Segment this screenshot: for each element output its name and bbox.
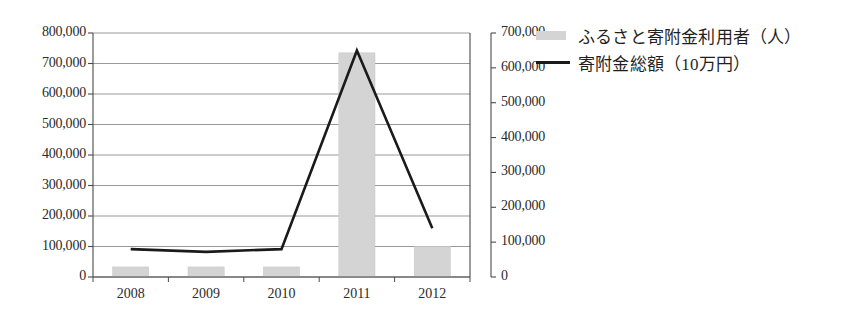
bar-2012 xyxy=(414,247,450,278)
y-axis-right-label-500000: 500,000 xyxy=(501,94,545,110)
y-axis-right-label-0: 0 xyxy=(501,268,508,284)
y-axis-left-label-400000: 400,000 xyxy=(8,146,86,162)
y-axis-left-label-700000: 700,000 xyxy=(8,55,86,71)
axis-lines xyxy=(88,33,496,282)
y-axis-left-label-500000: 500,000 xyxy=(8,116,86,132)
bar-swatch-icon xyxy=(536,31,578,40)
y-axis-left-label-0: 0 xyxy=(8,268,86,284)
legend-label-furusato-users: ふるさと寄附金利用者（人） xyxy=(578,23,802,48)
y-axis-right-label-300000: 300,000 xyxy=(501,163,545,179)
y-axis-left-label-600000: 600,000 xyxy=(8,85,86,101)
line-swatch-icon xyxy=(536,61,578,64)
x-axis-label-2009: 2009 xyxy=(168,286,243,302)
y-axis-left-label-200000: 200,000 xyxy=(8,207,86,223)
legend-label-donation-total: 寄附金総額（10万円） xyxy=(578,50,750,75)
x-axis-label-2008: 2008 xyxy=(93,286,168,302)
x-axis-label-2012: 2012 xyxy=(395,286,470,302)
y-axis-right-label-400000: 400,000 xyxy=(501,129,545,145)
y-axis-right-label-100000: 100,000 xyxy=(501,233,545,249)
x-axis-label-2011: 2011 xyxy=(319,286,394,302)
chart-legend: ふるさと寄附金利用者（人） 寄附金総額（10万円） xyxy=(536,22,836,76)
bar-series-furusato-users xyxy=(113,53,451,277)
y-axis-left-label-300000: 300,000 xyxy=(8,177,86,193)
line-path-donation-total xyxy=(131,50,433,251)
legend-item-furusato-users: ふるさと寄附金利用者（人） xyxy=(536,22,836,49)
y-axis-right-label-200000: 200,000 xyxy=(501,198,545,214)
bar-2008 xyxy=(113,267,149,277)
legend-item-donation-total: 寄附金総額（10万円） xyxy=(536,49,836,76)
bar-2010 xyxy=(263,267,299,277)
chart-container: 0100,000200,000300,000400,000500,000600,… xyxy=(0,0,847,329)
y-axis-left-label-800000: 800,000 xyxy=(8,24,86,40)
gridlines xyxy=(93,33,470,277)
bar-2009 xyxy=(188,267,224,277)
y-axis-left-label-100000: 100,000 xyxy=(8,238,86,254)
x-axis-label-2010: 2010 xyxy=(244,286,319,302)
line-series-donation-total xyxy=(131,50,433,251)
